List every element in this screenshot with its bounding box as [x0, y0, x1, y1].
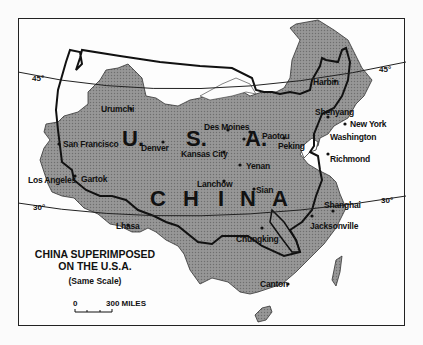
lat-45-west-label: 45°	[32, 74, 44, 83]
china-letter-n: N	[240, 188, 256, 210]
china-letter-i: I	[218, 188, 224, 210]
map-title-line1: CHINA SUPERIMPOSED	[30, 248, 160, 260]
lat-45-east-label: 45°	[379, 65, 391, 74]
city-new-york: New York	[350, 120, 386, 129]
city-harbin: Harbin	[313, 78, 339, 87]
taiwan-island	[332, 256, 342, 286]
scale-zero-label: 0	[73, 299, 77, 308]
city-canton: Canton	[260, 280, 288, 289]
map-canvas	[0, 0, 423, 345]
city-sian: Sian	[256, 186, 273, 195]
city-chungking: Chungking	[236, 235, 279, 244]
china-letter-c: C	[150, 188, 166, 210]
city-denver: Denver	[141, 144, 169, 153]
city-gartok: Gartok	[81, 175, 107, 184]
lat-30-west-label: 30°	[33, 203, 45, 212]
scale-bar	[75, 309, 112, 312]
hainan-island	[255, 306, 272, 322]
map-subtitle: (Same Scale)	[30, 276, 160, 286]
city-shanghai: Shanghai	[324, 201, 361, 210]
map-title: CHINA SUPERIMPOSED ON THE U.S.A.	[30, 248, 160, 272]
scale-miles-label: 300 MILES	[106, 299, 146, 308]
city-peking: Peking	[278, 142, 305, 151]
city-lanchow: Lanchow	[197, 180, 232, 189]
china-letter-a: A	[272, 188, 288, 210]
city-washington: Washington	[330, 133, 376, 142]
city-jacksonville: Jacksonville	[310, 222, 358, 231]
city-yenan: Yenan	[246, 162, 270, 171]
city-kansas-city: Kansas City	[181, 150, 227, 159]
city-shenyang: Shenyang	[315, 108, 354, 117]
china-letter-h: H	[183, 188, 199, 210]
city-san-francisco: San Francisco	[63, 140, 119, 149]
city-los-angeles: Los Angeles	[28, 176, 76, 185]
lat-30-east-label: 30°	[381, 196, 393, 205]
map-title-line2: ON THE U.S.A.	[30, 260, 160, 272]
city-paotou: Paotou	[262, 132, 290, 141]
city-richmond: Richmond	[330, 155, 370, 164]
city-lhasa: Lhasa	[116, 222, 140, 231]
city-des-moines: Des Moines	[204, 123, 249, 132]
city-urumchi: Urumchi	[101, 105, 134, 114]
